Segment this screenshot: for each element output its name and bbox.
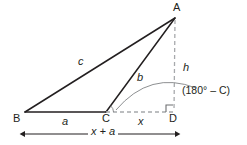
exterior-angle-label: (180° – C) [182,85,230,96]
vertex-label-a: A [173,2,180,13]
side-label-c: c [78,56,84,67]
side-label-b: b [137,72,143,83]
right-angle-marker-d [166,105,173,112]
side-label-a: a [62,116,68,127]
segment-ad [174,20,175,111]
vertex-label-d: D [169,113,177,124]
segment-ca [106,18,175,112]
vertex-label-c: C [102,113,110,124]
segment-ba [25,18,175,112]
overall-width-dimension-label: x + a [88,126,118,137]
side-label-x: x [138,116,144,127]
vertex-label-b: B [13,113,20,124]
side-label-h: h [183,62,189,73]
diagram-canvas [0,0,247,145]
interior-angle-tick-c [111,106,114,112]
geometry-diagram: A B C D c b h a x (180° – C) x + a [0,0,247,145]
